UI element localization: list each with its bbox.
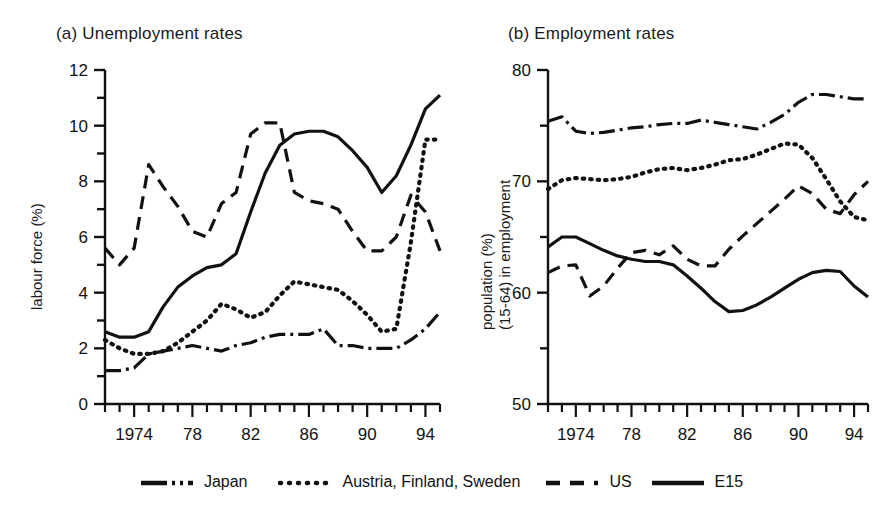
y-tick-label: 0 bbox=[79, 395, 88, 414]
y-tick-label: 4 bbox=[79, 284, 88, 303]
panel-a-plot: 02468101219747882869094 bbox=[0, 0, 460, 450]
y-tick-label: 10 bbox=[69, 117, 88, 136]
y-tick-label: 2 bbox=[79, 339, 88, 358]
x-tick-label: 78 bbox=[622, 425, 641, 444]
series-line-e15 bbox=[105, 95, 440, 337]
panel-b-plot: 5060708019747882869094 bbox=[448, 0, 882, 450]
y-tick-label: 12 bbox=[69, 61, 88, 80]
x-tick-label: 94 bbox=[416, 425, 435, 444]
y-tick-label: 70 bbox=[512, 172, 531, 191]
legend-label: E15 bbox=[715, 473, 743, 491]
legend-key-us bbox=[544, 475, 600, 489]
legend-item-japan[interactable]: Japan bbox=[139, 473, 248, 491]
legend-label: US bbox=[609, 473, 631, 491]
x-tick-label: 1974 bbox=[115, 425, 153, 444]
figure-root: (a) Unemployment rates labour force (%) … bbox=[0, 0, 882, 512]
chart-legend: JapanAustria, Finland, SwedenUSE15 bbox=[0, 452, 882, 512]
series-line-e15 bbox=[548, 237, 868, 312]
x-tick-label: 78 bbox=[183, 425, 202, 444]
legend-key-nordic bbox=[278, 475, 334, 489]
panel-b-y-axis-label-line1: population (%) bbox=[478, 233, 495, 330]
legend-key-us-glyph bbox=[544, 475, 600, 489]
panel-b-y-axis-label-line2: (15-64) in employment bbox=[496, 180, 513, 330]
y-tick-label: 50 bbox=[512, 395, 531, 414]
legend-label: Austria, Finland, Sweden bbox=[343, 473, 521, 491]
y-tick-label: 6 bbox=[79, 228, 88, 247]
panel-employment-rates: (b) Employment rates 5060708019747882869… bbox=[448, 0, 882, 450]
legend-key-japan-glyph bbox=[139, 475, 195, 489]
panel-unemployment-rates: (a) Unemployment rates labour force (%) … bbox=[0, 0, 460, 450]
legend-label: Japan bbox=[204, 473, 248, 491]
x-tick-label: 94 bbox=[845, 425, 864, 444]
y-tick-label: 60 bbox=[512, 284, 531, 303]
series-line-japan bbox=[548, 94, 868, 133]
x-tick-label: 86 bbox=[733, 425, 752, 444]
y-tick-label: 80 bbox=[512, 61, 531, 80]
legend-key-e15-glyph bbox=[650, 475, 706, 489]
legend-key-e15 bbox=[650, 475, 706, 489]
x-tick-label: 86 bbox=[299, 425, 318, 444]
x-tick-label: 1974 bbox=[557, 425, 595, 444]
x-tick-label: 90 bbox=[358, 425, 377, 444]
x-tick-label: 82 bbox=[678, 425, 697, 444]
legend-key-nordic-glyph bbox=[278, 475, 334, 489]
series-line-austria-finland-sweden bbox=[548, 143, 868, 220]
legend-key-japan bbox=[139, 475, 195, 489]
y-tick-label: 8 bbox=[79, 172, 88, 191]
legend-item-e15[interactable]: E15 bbox=[650, 473, 743, 491]
series-line-us bbox=[105, 123, 440, 265]
series-line-us bbox=[548, 181, 868, 296]
x-tick-label: 90 bbox=[789, 425, 808, 444]
legend-item-austria-finland-sweden[interactable]: Austria, Finland, Sweden bbox=[278, 473, 521, 491]
x-tick-label: 82 bbox=[241, 425, 260, 444]
legend-item-us[interactable]: US bbox=[544, 473, 631, 491]
